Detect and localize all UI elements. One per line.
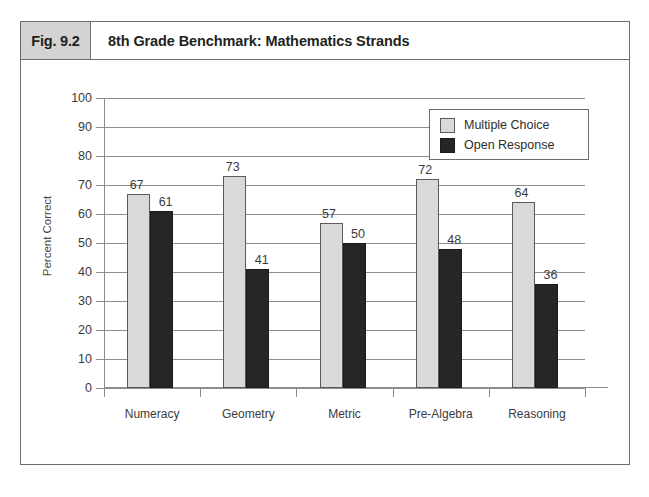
legend-label-multiple-choice: Multiple Choice (464, 118, 549, 132)
bar-value-label: 64 (514, 186, 528, 200)
x-axis-label-reasoning: Reasoning (508, 407, 565, 421)
gridline (104, 98, 585, 99)
legend-swatch-open-response (440, 138, 455, 153)
y-axis-tick-label: 50 (58, 236, 92, 250)
bar-metric-open-response (343, 243, 366, 388)
bar-pre-algebra-multiple-choice (416, 179, 439, 388)
y-axis-tick (96, 243, 104, 244)
bar-numeracy-multiple-choice (127, 194, 150, 388)
x-axis-label-geometry: Geometry (222, 407, 275, 421)
x-axis-tick (104, 388, 105, 397)
y-axis-tick-label: 30 (58, 294, 92, 308)
y-axis-tick-label: 90 (58, 120, 92, 134)
legend-item: Open Response (440, 135, 588, 155)
figure-number: Fig. 9.2 (21, 22, 91, 59)
figure-container: Fig. 9.2 8th Grade Benchmark: Mathematic… (20, 21, 630, 465)
legend-swatch-multiple-choice (440, 118, 455, 133)
chart-legend: Multiple Choice Open Response (429, 109, 589, 160)
bar-value-label: 50 (351, 227, 365, 241)
figure-header: Fig. 9.2 8th Grade Benchmark: Mathematic… (21, 22, 629, 60)
bar-geometry-multiple-choice (223, 176, 246, 388)
bar-geometry-open-response (246, 269, 269, 388)
bar-value-label: 36 (543, 268, 557, 282)
y-axis-tick-label: 10 (58, 352, 92, 366)
x-axis-extension (585, 387, 608, 388)
y-axis-tick-label: 20 (58, 323, 92, 337)
x-axis-tick (296, 388, 297, 397)
bar-value-label: 48 (447, 233, 461, 247)
x-axis-tick (585, 388, 586, 397)
y-axis-tick (96, 388, 104, 389)
y-axis-tick-label: 70 (58, 178, 92, 192)
y-axis-tick-label: 60 (58, 207, 92, 221)
y-axis-tick (96, 185, 104, 186)
legend-item: Multiple Choice (440, 115, 588, 135)
plot-region: Percent Correct 0102030405060708090100 6… (21, 60, 629, 464)
figure-title: 8th Grade Benchmark: Mathematics Strands (91, 22, 629, 59)
y-axis-tick-label: 100 (58, 91, 92, 105)
x-axis-label-metric: Metric (328, 407, 361, 421)
x-axis-tick (489, 388, 490, 397)
y-axis-tick (96, 98, 104, 99)
x-axis-label-pre-algebra: Pre-Algebra (409, 407, 473, 421)
y-axis-title: Percent Correct (41, 176, 53, 296)
bar-metric-multiple-choice (320, 223, 343, 388)
y-axis-tick (96, 301, 104, 302)
bar-value-label: 57 (322, 207, 336, 221)
y-axis-tick (96, 330, 104, 331)
bar-value-label: 72 (418, 163, 432, 177)
y-axis-tick (96, 127, 104, 128)
bar-value-label: 73 (226, 160, 240, 174)
bar-pre-algebra-open-response (439, 249, 462, 388)
x-axis-tick (393, 388, 394, 397)
gridline (104, 185, 585, 186)
y-axis-tick (96, 359, 104, 360)
y-axis-tick-label: 40 (58, 265, 92, 279)
x-axis-label-numeracy: Numeracy (125, 407, 180, 421)
bar-value-label: 61 (159, 195, 173, 209)
x-axis-tick (200, 388, 201, 397)
bar-value-label: 41 (255, 253, 269, 267)
legend-label-open-response: Open Response (464, 138, 554, 152)
y-axis-tick-label: 0 (58, 381, 92, 395)
bar-reasoning-multiple-choice (512, 202, 535, 388)
y-axis-tick (96, 272, 104, 273)
y-axis-tick (96, 214, 104, 215)
y-axis-tick-label: 80 (58, 149, 92, 163)
gridline (104, 388, 585, 389)
bar-value-label: 67 (130, 178, 144, 192)
bar-numeracy-open-response (150, 211, 173, 388)
bar-reasoning-open-response (535, 284, 558, 388)
y-axis-tick (96, 156, 104, 157)
